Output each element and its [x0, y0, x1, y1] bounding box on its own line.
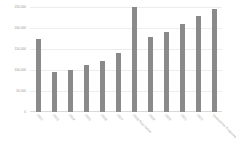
bar[interactable] — [196, 16, 201, 112]
x-axis-tick-label: 2019 — [148, 114, 156, 122]
y-axis-tick-label: 0 — [24, 111, 26, 114]
bar[interactable] — [116, 53, 121, 112]
x-axis-tick-label: 2014 — [68, 114, 76, 122]
bar-chart: 050,000100,000150,000200,000250,000 2012… — [0, 0, 236, 165]
bar[interactable] — [100, 61, 105, 112]
bar[interactable] — [84, 65, 89, 112]
bar-slot — [110, 7, 126, 112]
x-axis-tick-label: 2022 — [196, 114, 204, 122]
bar-slot — [78, 7, 94, 112]
y-axis-tick-label: 50,000 — [16, 90, 26, 93]
x-axis-tick-labels: 2012201320142015201620172018 Total Sales… — [30, 112, 222, 165]
bar-slot — [174, 7, 190, 112]
bar[interactable] — [68, 70, 73, 112]
y-axis-tick-label: 200,000 — [14, 27, 26, 30]
x-axis-tick-label: 2020 — [164, 114, 172, 122]
chart-screenshot: 050,000100,000150,000200,000250,000 2012… — [0, 0, 236, 165]
bar[interactable] — [180, 24, 185, 112]
bar-series — [30, 7, 222, 112]
bar-slot — [142, 7, 158, 112]
y-axis-tick-label: 150,000 — [14, 48, 26, 51]
bar[interactable] — [132, 7, 137, 112]
bar[interactable] — [148, 37, 153, 112]
x-axis-tick-label: 2016 — [100, 114, 108, 122]
x-axis-tick-label: Cumulative Projected Total — [212, 114, 236, 145]
x-axis-tick-label: 2013 — [52, 114, 60, 122]
bar-slot — [94, 7, 110, 112]
bar[interactable] — [36, 39, 41, 113]
y-axis-tick-label: 100,000 — [14, 69, 26, 72]
bar[interactable] — [212, 9, 217, 112]
bar[interactable] — [52, 72, 57, 112]
bar-slot — [158, 7, 174, 112]
bar-slot — [126, 7, 142, 112]
x-axis-tick-label: 2017 — [116, 114, 124, 122]
bar-slot — [30, 7, 46, 112]
bar-slot — [62, 7, 78, 112]
bar[interactable] — [164, 32, 169, 112]
y-axis-tick-labels: 050,000100,000150,000200,000250,000 — [0, 7, 28, 112]
plot-area — [30, 7, 222, 112]
bar-slot — [190, 7, 206, 112]
bar-slot — [206, 7, 222, 112]
bar-slot — [46, 7, 62, 112]
x-axis-tick-label: 2021 — [180, 114, 188, 122]
x-axis-tick-label: 2015 — [84, 114, 92, 122]
x-axis-tick-label: 2012 — [36, 114, 44, 122]
y-axis-tick-label: 250,000 — [14, 6, 26, 9]
